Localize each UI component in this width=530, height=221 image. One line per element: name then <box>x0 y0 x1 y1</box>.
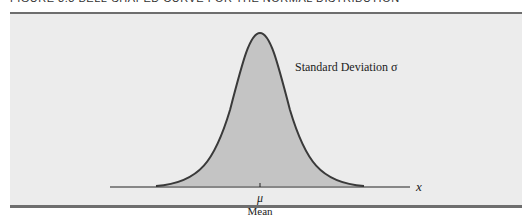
x-axis-label: x <box>415 179 422 194</box>
curve-fill <box>156 33 364 186</box>
mu-label: μ <box>256 191 263 205</box>
normal-curve-chart: x μ Mean Standard Deviation σ <box>0 0 530 221</box>
sigma-label: Standard Deviation σ <box>295 60 398 74</box>
mean-label: Mean <box>247 205 273 217</box>
